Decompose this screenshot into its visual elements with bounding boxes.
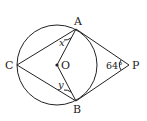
center-point-o (55, 63, 58, 66)
label-b: B (73, 103, 81, 116)
label-angle-y: y (57, 79, 64, 90)
label-angle-x: x (59, 37, 65, 48)
label-angle-p: 64° (106, 60, 123, 71)
label-a: A (73, 15, 83, 28)
label-c: C (5, 59, 13, 72)
label-o: O (61, 59, 70, 72)
geometry-diagram: A B C O P 64° x y (0, 0, 147, 121)
label-p: P (132, 59, 140, 72)
